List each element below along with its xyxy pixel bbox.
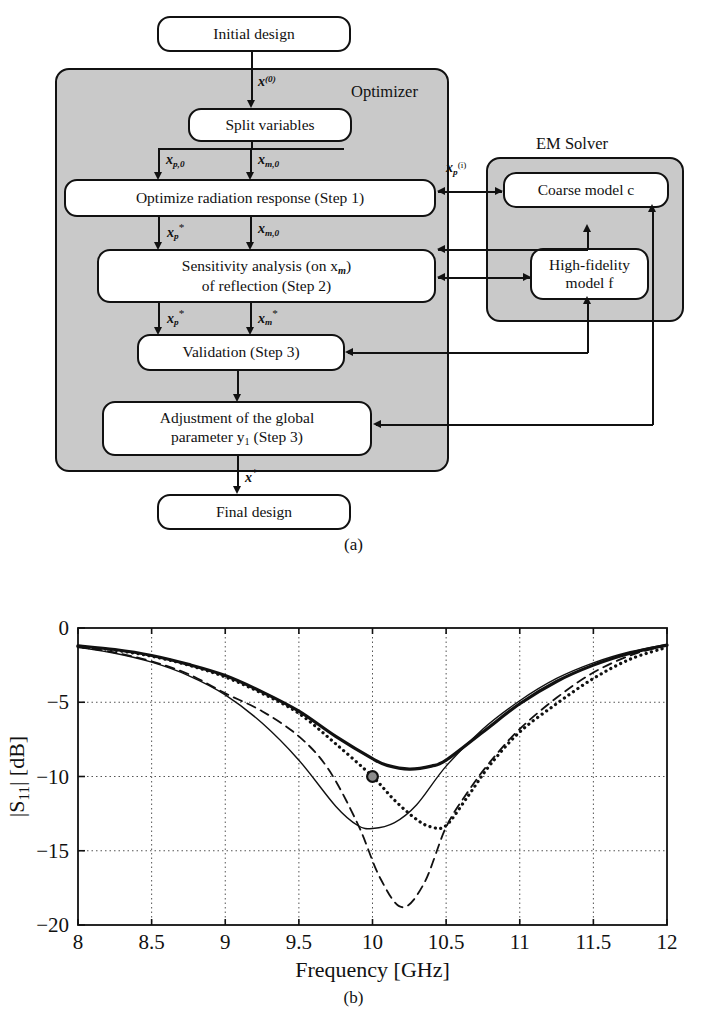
edge-hf-feedback-h xyxy=(348,352,588,354)
arrowhead-opt-right xyxy=(246,242,254,250)
svg-text:|S11| [dB]: |S11| [dB] xyxy=(4,736,32,817)
node-optimize-radiation-label: Optimize radiation response (Step 1) xyxy=(136,189,364,207)
x-tick-label: 9 xyxy=(220,930,231,954)
arrowhead-hf-to-sens xyxy=(437,273,445,281)
edge-label-xp-star-b: xp* xyxy=(167,307,184,327)
arrowhead-coarse-to-sens xyxy=(437,245,445,253)
y-tick-label: 0 xyxy=(59,616,70,640)
high-fidelity-line-2: model f xyxy=(566,274,614,292)
node-final-design-label: Final design xyxy=(216,503,292,521)
edge-coarse-feedback-v xyxy=(652,208,654,425)
edge-label-xm0-a: xm,0 xyxy=(258,152,279,169)
node-coarse-model[interactable]: Coarse model c xyxy=(503,172,669,208)
edge-split-to-opt-left xyxy=(158,148,160,174)
caption-a: (a) xyxy=(0,535,707,555)
edge-hf-to-coarse-h xyxy=(438,249,588,251)
x-tick-label: 9.5 xyxy=(286,930,312,954)
node-split-variables-label: Split variables xyxy=(225,116,314,134)
x-tick-label: 11 xyxy=(510,930,530,954)
node-final-design[interactable]: Final design xyxy=(157,494,351,530)
flowchart-figure: Optimizer EM Solver Initial design Split… xyxy=(0,0,707,560)
arrowhead-sens-right xyxy=(246,327,254,335)
edge-label-xp-star-a: xp* xyxy=(167,221,184,241)
adjustment-line-1: Adjustment of the global xyxy=(160,409,315,427)
edge-sens-to-val-right xyxy=(250,303,252,329)
arrowhead-val-to-adj xyxy=(233,394,241,402)
x-tick-label: 12 xyxy=(657,930,678,954)
arrowhead-split-left xyxy=(154,172,162,180)
chart-figure: 88.599.51010.51111.5120−5−10−15−20Freque… xyxy=(0,560,707,1032)
y-axis-label: |S11| [dB] xyxy=(4,736,32,817)
sensitivity-text-1: Sensitivity analysis (on x xyxy=(182,257,338,274)
sensitivity-sub: m xyxy=(338,257,346,274)
edge-label-x0: x(0) xyxy=(258,74,276,90)
edge-adj-to-final xyxy=(237,456,239,488)
x-tick-label: 8 xyxy=(73,930,84,954)
edge-val-to-adj xyxy=(237,371,239,396)
arrowhead-hf-to-coarse xyxy=(583,224,591,232)
node-validation[interactable]: Validation (Step 3) xyxy=(137,334,345,371)
edge-label-xp-i: xp(i) xyxy=(446,160,466,177)
x-tick-label: 10 xyxy=(362,930,383,954)
edge-hf-to-coarse-v xyxy=(587,230,589,250)
adjustment-line-2: parameter y1 (Step 3) xyxy=(171,428,303,448)
arrowhead-adj-to-final xyxy=(233,486,241,494)
adjustment-text-b: (Step 3) xyxy=(250,428,303,445)
arrowhead-sens-to-hf xyxy=(523,273,531,281)
arrowhead-validation-hf-up xyxy=(583,296,591,304)
arrowhead-initial-to-split xyxy=(247,100,255,108)
arrowhead-hf-to-validation xyxy=(345,348,353,356)
node-initial-design[interactable]: Initial design xyxy=(157,16,351,52)
y-tick-label: −15 xyxy=(36,839,69,863)
sensitivity-line-1: Sensitivity analysis (on xm) xyxy=(182,257,351,277)
node-coarse-model-label: Coarse model c xyxy=(538,181,634,199)
arrowhead-sens-left xyxy=(154,327,162,335)
y-tick-label: −10 xyxy=(36,765,69,789)
arrowhead-coarse-to-adjustment xyxy=(373,420,381,428)
caption-b: (b) xyxy=(0,988,707,1008)
arrowhead-opt-to-coarse xyxy=(495,187,503,195)
edge-split-to-opt-right xyxy=(250,148,252,174)
node-validation-label: Validation (Step 3) xyxy=(182,343,299,361)
high-fidelity-line-1: High-fidelity xyxy=(549,256,630,274)
arrowhead-feedback-into-coarse xyxy=(648,204,656,212)
node-high-fidelity-model[interactable]: High-fidelity model f xyxy=(530,248,649,300)
y-tick-label: −5 xyxy=(47,690,69,714)
node-sensitivity-analysis[interactable]: Sensitivity analysis (on xm) of reflecti… xyxy=(97,249,436,303)
edge-label-xm0-b: xm,0 xyxy=(258,221,279,238)
arrowhead-coarse-to-opt xyxy=(437,187,445,195)
node-initial-design-label: Initial design xyxy=(213,25,294,43)
node-adjustment[interactable]: Adjustment of the global parameter y1 (S… xyxy=(102,401,372,456)
edge-opt-coarse xyxy=(438,191,502,193)
s11-plot: 88.599.51010.51111.5120−5−10−15−20Freque… xyxy=(0,560,707,1032)
y-tick-label: −20 xyxy=(36,913,69,937)
sensitivity-line-2: of reflection (Step 2) xyxy=(202,277,332,295)
edge-sens-hf xyxy=(438,277,530,279)
adjustment-text-a: parameter y xyxy=(171,428,245,445)
optimizer-panel-label: Optimizer xyxy=(351,82,418,102)
sensitivity-text-2: ) xyxy=(346,257,351,274)
edge-label-x-star: x* xyxy=(245,466,258,486)
edge-coarse-feedback-h xyxy=(376,424,653,426)
edge-opt-to-sens-left xyxy=(158,217,160,244)
edge-opt-to-sens-right xyxy=(250,217,252,244)
edge-hf-feedback-v xyxy=(587,300,589,353)
em-solver-panel-label: EM Solver xyxy=(536,134,608,154)
arrowhead-opt-left xyxy=(154,242,162,250)
x-tick-label: 10.5 xyxy=(428,930,465,954)
x-tick-label: 8.5 xyxy=(139,930,165,954)
edge-label-xm-star: xm* xyxy=(258,307,278,327)
node-optimize-radiation[interactable]: Optimize radiation response (Step 1) xyxy=(64,179,436,217)
edge-sens-to-val-left xyxy=(158,303,160,329)
x-tick-label: 11.5 xyxy=(575,930,611,954)
x-axis-label: Frequency [GHz] xyxy=(295,957,450,982)
edge-initial-to-split xyxy=(251,52,253,102)
design-spec-marker xyxy=(367,771,378,782)
node-split-variables[interactable]: Split variables xyxy=(188,108,352,142)
arrowhead-split-right xyxy=(246,172,254,180)
edge-label-xp0: xp,0 xyxy=(166,152,185,169)
